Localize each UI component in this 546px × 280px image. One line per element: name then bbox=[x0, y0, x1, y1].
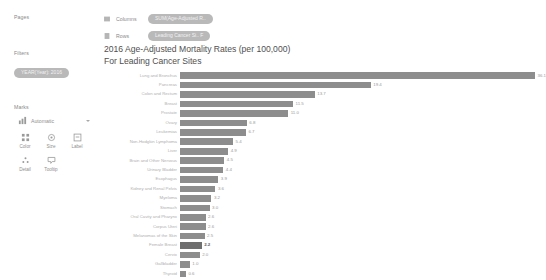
bar-track: 11.0 bbox=[180, 109, 544, 118]
pages-shelf-label: Pages bbox=[14, 14, 88, 20]
bar-mark[interactable] bbox=[180, 101, 293, 108]
bar-row[interactable]: Lung and Bronchus36.1 bbox=[104, 71, 544, 80]
bar-track: 11.5 bbox=[180, 99, 544, 108]
bar-mark[interactable] bbox=[180, 72, 535, 79]
label-icon bbox=[73, 133, 82, 142]
bar-category-label: Urinary Bladder bbox=[104, 168, 180, 172]
rows-pill-dimension[interactable]: Leading Cancer Si.. F bbox=[148, 31, 210, 41]
bar-category-label: Stomach bbox=[104, 206, 180, 210]
marks-button-color[interactable]: Color bbox=[14, 133, 36, 149]
filter-pill-year[interactable]: YEAR(Year): 2016 bbox=[14, 68, 69, 78]
visualization-canvas[interactable]: 2016 Age-Adjusted Mortality Rates (per 1… bbox=[104, 44, 544, 280]
bar-track: 13.7 bbox=[180, 90, 544, 99]
bar-value-label: 36.1 bbox=[538, 74, 546, 78]
bar-value-label: 4.9 bbox=[231, 149, 237, 153]
bar-row[interactable]: Kidney and Renal Pelvis3.6 bbox=[104, 184, 544, 193]
bar-row[interactable]: Esophagus3.9 bbox=[104, 175, 544, 184]
bar-category-label: Prostate bbox=[104, 111, 180, 115]
bar-row[interactable]: Non-Hodgkin Lymphoma5.4 bbox=[104, 137, 544, 146]
bar-row[interactable]: Brain and Other Nervous4.5 bbox=[104, 156, 544, 165]
bar-row[interactable]: Pancreas19.4 bbox=[104, 80, 544, 89]
bar-track: 0.6 bbox=[180, 269, 544, 278]
bar-row[interactable]: Cervix2.0 bbox=[104, 250, 544, 259]
bar-row[interactable]: Colon and Rectum13.7 bbox=[104, 90, 544, 99]
rows-shelf[interactable]: Rows Leading Cancer Si.. F bbox=[96, 29, 546, 42]
columns-pill-measure[interactable]: SUM(Age-Adjusted R.. bbox=[148, 14, 213, 24]
bar-row[interactable]: Myeloma3.2 bbox=[104, 194, 544, 203]
rows-shelf-label: Rows bbox=[116, 33, 142, 39]
bar-value-label: 2.0 bbox=[202, 253, 208, 257]
marks-buttons-row-1: Color Size Label bbox=[14, 133, 88, 149]
bar-row[interactable]: Liver4.9 bbox=[104, 147, 544, 156]
bar-row[interactable]: Thyroid0.6 bbox=[104, 269, 544, 278]
bar-mark[interactable] bbox=[180, 252, 200, 259]
bar-mark[interactable] bbox=[180, 205, 210, 212]
chevron-down-icon bbox=[86, 120, 90, 122]
bar-mark[interactable] bbox=[180, 186, 215, 193]
bar-category-label: Female Breast bbox=[104, 243, 180, 247]
chart-title-line-2: For Leading Cancer Sites bbox=[104, 56, 544, 68]
bar-mark[interactable] bbox=[180, 271, 186, 278]
bar-row[interactable]: Prostate11.0 bbox=[104, 109, 544, 118]
marks-button-color-label: Color bbox=[20, 144, 31, 149]
bar-mark[interactable] bbox=[180, 176, 218, 183]
bar-mark[interactable] bbox=[180, 195, 211, 202]
bar-value-label: 19.4 bbox=[373, 83, 382, 87]
bar-category-label: Oral Cavity and Pharynx bbox=[104, 215, 180, 219]
bar-value-label: 11.0 bbox=[291, 111, 299, 115]
bar-mark[interactable] bbox=[180, 242, 202, 249]
bar-category-label: Gallbladder bbox=[104, 262, 180, 266]
bar-mark[interactable] bbox=[180, 167, 223, 174]
marks-button-size[interactable]: Size bbox=[40, 133, 62, 149]
bar-track: 2.5 bbox=[180, 231, 544, 240]
bar-row[interactable]: Ovary6.8 bbox=[104, 118, 544, 127]
bar-track: 2.6 bbox=[180, 222, 544, 231]
bar-mark[interactable] bbox=[180, 148, 228, 155]
bar-category-label: Pancreas bbox=[104, 83, 180, 87]
bar-value-label: 1.0 bbox=[192, 262, 198, 266]
bar-mark[interactable] bbox=[180, 91, 315, 98]
bar-mark[interactable] bbox=[180, 261, 190, 268]
columns-shelf[interactable]: Columns SUM(Age-Adjusted R.. bbox=[96, 12, 546, 25]
bar-row[interactable]: Female Breast2.2 bbox=[104, 241, 544, 250]
bar-chart-plot: Lung and Bronchus36.1Pancreas19.4Colon a… bbox=[104, 71, 544, 279]
bar-mark[interactable] bbox=[180, 110, 288, 117]
bar-row[interactable]: Melanomas of the Skin2.5 bbox=[104, 231, 544, 240]
marks-button-detail[interactable]: Detail bbox=[14, 156, 36, 172]
bar-mark[interactable] bbox=[180, 138, 233, 145]
marks-type-label: Automatic bbox=[31, 118, 54, 124]
bar-row[interactable]: Leukemias6.7 bbox=[104, 128, 544, 137]
bar-value-label: 4.5 bbox=[227, 158, 233, 162]
bar-value-label: 3.0 bbox=[212, 206, 218, 210]
bar-mark[interactable] bbox=[180, 82, 371, 89]
bar-row[interactable]: Breast11.5 bbox=[104, 99, 544, 108]
bar-mark[interactable] bbox=[180, 223, 206, 230]
bar-mark[interactable] bbox=[180, 214, 206, 221]
marks-type-dropdown[interactable]: Automatic bbox=[14, 116, 90, 125]
size-icon bbox=[47, 133, 56, 142]
bar-value-label: 3.2 bbox=[214, 196, 220, 200]
marks-button-detail-label: Detail bbox=[19, 167, 31, 172]
bar-value-label: 2.6 bbox=[208, 215, 214, 219]
bar-category-label: Ovary bbox=[104, 121, 180, 125]
bar-mark[interactable] bbox=[180, 233, 205, 240]
bar-row[interactable]: Gallbladder1.0 bbox=[104, 260, 544, 269]
bar-row[interactable]: Corpus Uteri2.6 bbox=[104, 222, 544, 231]
bar-value-label: 6.7 bbox=[248, 130, 254, 134]
bar-track: 6.8 bbox=[180, 118, 544, 127]
bar-mark[interactable] bbox=[180, 129, 246, 136]
marks-card-label: Marks bbox=[14, 104, 88, 110]
bar-mark[interactable] bbox=[180, 157, 224, 164]
bar-row[interactable]: Urinary Bladder4.4 bbox=[104, 165, 544, 174]
bar-row[interactable]: Oral Cavity and Pharynx2.6 bbox=[104, 213, 544, 222]
bar-value-label: 3.9 bbox=[221, 177, 227, 181]
bar-category-label: Melanomas of the Skin bbox=[104, 234, 180, 238]
marks-button-label[interactable]: Label bbox=[66, 133, 88, 149]
marks-button-label-label: Label bbox=[71, 144, 82, 149]
color-icon bbox=[21, 133, 30, 142]
bar-row[interactable]: Stomach3.0 bbox=[104, 203, 544, 212]
marks-button-tooltip[interactable]: Tooltip bbox=[40, 156, 62, 172]
bar-mark[interactable] bbox=[180, 120, 247, 127]
bar-value-label: 0.6 bbox=[188, 272, 194, 276]
bar-value-label: 13.7 bbox=[317, 92, 326, 96]
